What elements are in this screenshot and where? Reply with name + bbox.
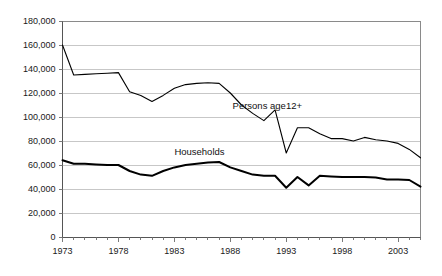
y-axis-label-180000: 180,000: [23, 16, 56, 26]
x-axis-label-2003: 2003: [388, 246, 408, 256]
gridlines: [63, 21, 421, 237]
x-axis-label-1983: 1983: [164, 246, 184, 256]
series-annotations: Persons age12+Households: [174, 100, 302, 157]
x-axis-ticks: [63, 237, 421, 242]
x-axis-tick-labels: 1973197819831988199319982003: [52, 246, 408, 256]
plot-frame: [63, 21, 421, 237]
y-axis-label-20000: 20,000: [28, 208, 56, 218]
y-axis-label-100000: 100,000: [23, 112, 56, 122]
x-axis-label-1973: 1973: [52, 246, 72, 256]
y-axis-label-160000: 160,000: [23, 40, 56, 50]
series-label-persons-age12: Persons age12+: [233, 100, 303, 111]
y-axis-label-120000: 120,000: [23, 88, 56, 98]
x-axis-label-1998: 1998: [332, 246, 352, 256]
y-axis-label-60000: 60,000: [28, 160, 56, 170]
x-axis-label-1978: 1978: [108, 246, 128, 256]
line-chart: 020,00040,00060,00080,000100,000120,0001…: [0, 0, 442, 276]
y-axis-label-0: 0: [50, 232, 55, 242]
x-axis-label-1993: 1993: [276, 246, 296, 256]
series-line-households: [63, 160, 421, 188]
y-axis-ticks: [59, 21, 63, 237]
x-axis-label-1988: 1988: [220, 246, 240, 256]
y-axis-label-140000: 140,000: [23, 64, 56, 74]
series-label-households: Households: [174, 146, 224, 157]
y-axis-label-80000: 80,000: [28, 136, 56, 146]
data-series: [63, 45, 421, 188]
y-axis-label-40000: 40,000: [28, 184, 56, 194]
chart-container: 020,00040,00060,00080,000100,000120,0001…: [0, 0, 442, 276]
y-axis-tick-labels: 020,00040,00060,00080,000100,000120,0001…: [23, 16, 56, 242]
